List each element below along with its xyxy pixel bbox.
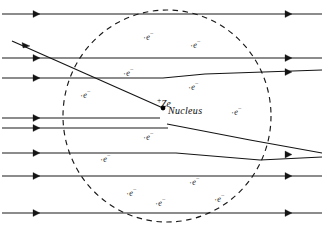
- electron-charge-superscript: −: [133, 185, 137, 192]
- electron-charge-superscript: −: [130, 65, 134, 72]
- electron-label: ·e−: [80, 87, 91, 100]
- electron-label: ·e−: [190, 37, 201, 50]
- electron-charge-superscript: −: [150, 29, 154, 36]
- electron-label: ·e−: [189, 174, 200, 187]
- electron-charge-superscript: −: [150, 129, 154, 136]
- electron-charge-superscript: −: [107, 151, 111, 158]
- nucleus-name-label: Nucleus: [168, 105, 202, 116]
- electron-label: ·e−: [143, 129, 154, 142]
- electron-label: ·e−: [123, 65, 134, 78]
- electron-charge-superscript: −: [238, 104, 242, 111]
- electron-label: ·e−: [214, 191, 225, 204]
- scattering-diagram: +Ze Nucleus ·e− ·e− ·e− ·e− ·e− ·e− ·e− …: [0, 0, 324, 230]
- electron-label: ·e−: [100, 151, 111, 164]
- electron-charge-superscript: −: [87, 87, 91, 94]
- electron-label: ·e−: [143, 29, 154, 42]
- electron-label: ·e−: [188, 79, 199, 92]
- electron-label: ·e−: [126, 185, 137, 198]
- electron-charge-superscript: −: [196, 174, 200, 181]
- electron-charge-superscript: −: [162, 195, 166, 202]
- label-layer: +Ze Nucleus ·e− ·e− ·e− ·e− ·e− ·e− ·e− …: [0, 0, 324, 230]
- electron-charge-superscript: −: [221, 191, 225, 198]
- electron-charge-superscript: −: [195, 79, 199, 86]
- electron-charge-superscript: −: [197, 37, 201, 44]
- electron-label: ·e−: [155, 195, 166, 208]
- electron-label: ·e−: [231, 104, 242, 117]
